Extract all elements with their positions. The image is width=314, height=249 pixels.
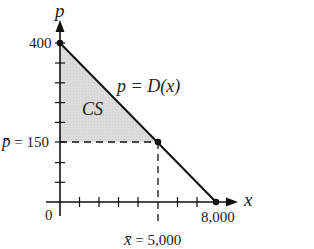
cs-label: CS	[82, 100, 103, 118]
pbar-symbol: p̄	[2, 132, 11, 151]
origin-label: 0	[45, 208, 53, 223]
x-axis-label: x	[244, 190, 252, 209]
xbar-symbol: x̄	[124, 230, 132, 249]
y-axis-arrow-icon	[56, 20, 65, 32]
point-equilibrium	[155, 139, 162, 146]
pbar-label: p̄ = 150	[2, 133, 49, 150]
xbar-value: = 5,000	[135, 232, 181, 248]
demand-curve-label: p = D(x)	[117, 77, 180, 95]
xbar-label: x̄ = 5,000	[124, 231, 181, 248]
consumer-surplus-chart: p x 400 p̄ = 150 0 8,000 x̄ = 5,000 p = …	[0, 0, 314, 249]
x-axis-arrow-icon	[226, 198, 238, 207]
point-x-intercept	[213, 199, 220, 206]
y-tick-label-400: 400	[29, 36, 52, 51]
p-axis-label: p	[55, 1, 65, 20]
x-tick-label-8000: 8,000	[201, 210, 235, 225]
point-p-intercept	[57, 40, 64, 47]
pbar-value: = 150	[14, 134, 49, 150]
